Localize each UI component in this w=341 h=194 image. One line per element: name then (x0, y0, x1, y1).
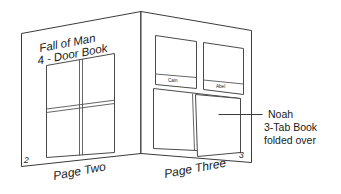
right-page-caption: Page Three (163, 156, 228, 181)
page-two-label: Page Two (52, 159, 107, 183)
four-door-book-body (47, 54, 115, 158)
page-three-label: Page Three (163, 156, 228, 181)
right-page-number: 3 (239, 150, 244, 160)
book-spread-illustration: Fall of Man 4 - Door Book 2 Page Two Cai… (0, 0, 341, 194)
left-page-number: 2 (23, 155, 29, 165)
cain-tab-label: Cain (168, 78, 178, 83)
noah-annotation: Noah 3-Tab Book folded over (264, 108, 318, 146)
diagram-canvas: Fall of Man 4 - Door Book 2 Page Two Cai… (0, 0, 341, 194)
tab-card-cain: Cain (156, 36, 197, 89)
annotation-line-1: Noah (268, 108, 293, 120)
annotation-line-3: folded over (264, 134, 316, 146)
abel-tab-label: Abel (216, 84, 225, 89)
left-page-caption: Page Two (52, 159, 107, 183)
tab-card-abel: Abel (204, 43, 244, 95)
noah-three-tab-book (154, 89, 241, 157)
noah-folded-over-flap (196, 95, 241, 157)
annotation-line-2: 3-Tab Book (264, 121, 318, 133)
